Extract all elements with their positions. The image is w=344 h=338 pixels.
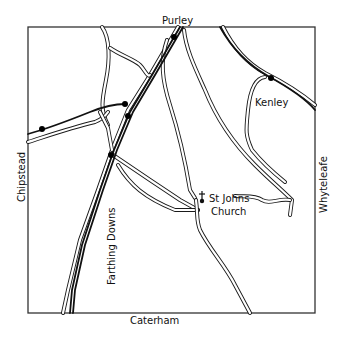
- church-cross-icon: [199, 191, 205, 203]
- label-church-name: St Johns: [209, 193, 249, 204]
- label-caterham: Caterham: [130, 315, 179, 326]
- station-dot-icon[interactable]: [39, 126, 45, 132]
- station-dot-icon[interactable]: [125, 113, 131, 119]
- label-chipstead: Chipstead: [16, 152, 27, 202]
- roads: [28, 27, 315, 313]
- label-whyteleafe: Whyteleafe: [318, 156, 329, 213]
- station-dot-icon[interactable]: [171, 34, 177, 40]
- label-kenley: Kenley: [255, 97, 288, 108]
- label-purley: Purley: [162, 15, 193, 26]
- station-dot-icon[interactable]: [122, 101, 128, 107]
- label-church-word: Church: [211, 206, 246, 217]
- station-dot-icon[interactable]: [108, 152, 114, 158]
- label-farthing-downs: Farthing Downs: [106, 207, 117, 285]
- map-canvas: Purley Caterham Chipstead Whyteleafe Ken…: [0, 0, 344, 338]
- station-dot-icon[interactable]: [268, 75, 274, 81]
